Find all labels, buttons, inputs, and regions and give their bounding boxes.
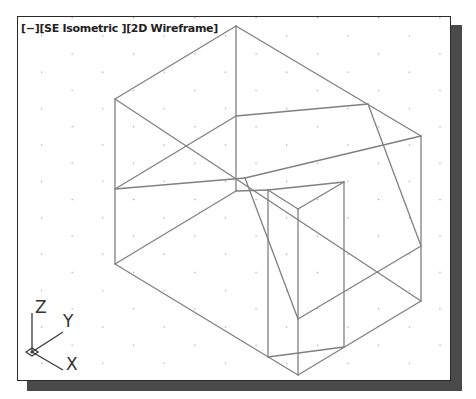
drawing-viewport[interactable]: [−][SE Isometric ][2D Wireframe] Z Y X (17, 16, 451, 381)
ucs-z-label: Z (35, 299, 47, 316)
visual-style-control[interactable]: [2D Wireframe] (126, 22, 218, 35)
viewport-controls: [−][SE Isometric ][2D Wireframe] (21, 22, 218, 35)
view-control[interactable]: [SE Isometric ] (39, 22, 126, 35)
model-canvas[interactable] (18, 17, 451, 381)
ucs-x-label: X (66, 356, 78, 373)
ucs-y-label: Y (63, 313, 73, 330)
grid-dots (18, 17, 451, 381)
viewport-menu-control[interactable]: [−] (21, 22, 39, 35)
